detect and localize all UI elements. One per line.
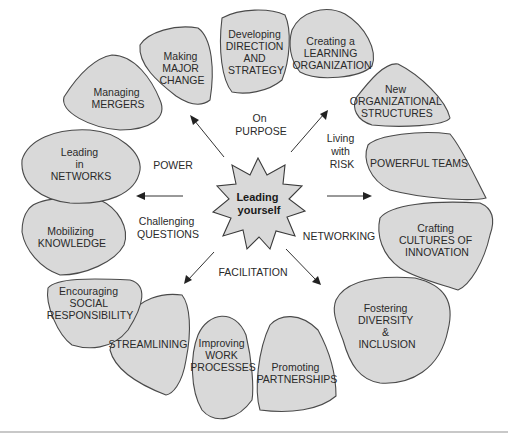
arrow-up-right bbox=[291, 110, 328, 152]
center-line: Leading bbox=[236, 191, 278, 203]
center-line: yourself bbox=[238, 204, 281, 216]
node-label-making-major-change: Making MAJOR CHANGE bbox=[160, 50, 205, 86]
arrow-up-left bbox=[190, 115, 224, 157]
arrow-right bbox=[327, 192, 372, 200]
leadership-diagram: Leading yourself On PURPOSE Living with … bbox=[0, 0, 508, 439]
node-shape-diversity-inclusion bbox=[334, 277, 450, 383]
center-label: Leading yourself bbox=[236, 191, 281, 216]
theme-challenging-questions: Challenging QUESTIONS bbox=[137, 215, 199, 240]
arrow-left bbox=[136, 192, 183, 200]
arrow-down-right bbox=[286, 249, 321, 285]
node-label-mobilizing-knowledge: Mobilizing KNOWLEDGE bbox=[38, 225, 106, 249]
node-label-powerful-teams: POWERFUL TEAMS bbox=[370, 157, 468, 169]
arrow-down-left bbox=[184, 252, 214, 284]
node-label-managing-mergers: Managing MERGERS bbox=[91, 86, 144, 110]
theme-living-with-risk: Living with RISK bbox=[327, 132, 357, 170]
theme-on-purpose: On PURPOSE bbox=[235, 112, 286, 137]
theme-power: POWER bbox=[153, 159, 193, 171]
theme-facilitation: FACILITATION bbox=[218, 266, 287, 278]
theme-networking: NETWORKING bbox=[303, 230, 375, 242]
node-label-streamlining: STREAMLINING bbox=[109, 338, 188, 350]
